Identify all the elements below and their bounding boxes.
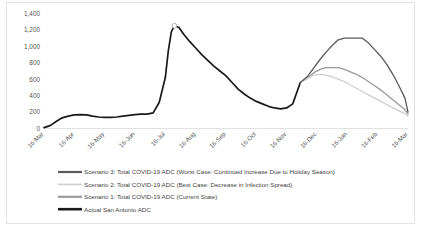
legend-item-label: Scenario 2: Total COVID-19 ADC (Best Cas… — [84, 181, 292, 188]
x-tick-label: 16-Jun — [117, 130, 136, 149]
y-tick-label: 200 — [29, 108, 40, 115]
x-tick-label: 16-Mar — [26, 130, 45, 149]
x-tick-label: 16-Feb — [360, 130, 379, 149]
y-tick-label: 1,000 — [24, 43, 40, 50]
legend-item-label: Scenario 1: Total COVID-19 ADC (Current … — [84, 193, 217, 200]
x-tick-label: 16-Dec — [299, 130, 318, 149]
chart-canvas: 02004006008001,0001,2001,400 16-Mar16-Ap… — [0, 0, 423, 228]
y-tick-label: 400 — [29, 92, 40, 99]
y-tick-label: 600 — [29, 76, 40, 83]
x-axis-tick-labels: 16-Mar16-Apr16-May16-Jun16-Jul16-Aug16-S… — [26, 130, 409, 150]
x-tick-label: 16-May — [86, 130, 106, 150]
peak-marker — [172, 23, 177, 28]
x-tick-label: 16-Aug — [177, 130, 196, 149]
covid-adc-line-chart: 02004006008001,0001,2001,400 16-Mar16-Ap… — [0, 0, 423, 228]
peak-marker-dot — [172, 23, 177, 28]
x-tick-label: 16-Nov — [268, 130, 288, 150]
series-lines — [44, 26, 408, 128]
series-line-scenario2 — [300, 74, 408, 116]
legend-item-label: Actual San Antonio ADC — [84, 206, 151, 213]
x-tick-label: 16-Mar — [390, 130, 409, 149]
x-tick-label: 16-Sep — [208, 130, 227, 149]
y-tick-label: 1,200 — [24, 26, 40, 33]
y-tick-label: 1,400 — [24, 10, 40, 17]
y-axis-tick-labels: 02004006008001,0001,2001,400 — [24, 10, 40, 132]
legend-item-label: Scenario 3: Total COVID-19 ADC (Worst Ca… — [84, 168, 335, 175]
y-tick-label: 800 — [29, 59, 40, 66]
series-line-actual — [44, 26, 300, 128]
x-tick-label: 16-Apr — [57, 130, 75, 148]
chart-legend: Scenario 3: Total COVID-19 ADC (Worst Ca… — [58, 168, 335, 212]
x-tick-label: 16-Oct — [239, 130, 257, 148]
x-tick-label: 16-Jan — [330, 130, 349, 149]
x-tick-label: 16-Jul — [149, 130, 166, 147]
